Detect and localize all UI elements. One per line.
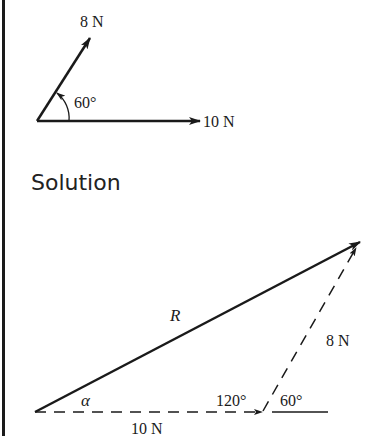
angle-arc xyxy=(57,93,69,121)
resultant-label: R xyxy=(169,306,181,325)
given-force-diagram: 8 N 60° 10 N xyxy=(37,13,235,130)
side-8n-label: 8 N xyxy=(326,332,350,349)
solution-triangle-diagram: R α 8 N 120° 60° 10 N xyxy=(35,242,360,436)
side-10n-label: 10 N xyxy=(131,420,163,436)
angle-60-label: 60° xyxy=(74,94,96,111)
alpha-label: α xyxy=(81,391,91,410)
vector-diagrams: 8 N 60° 10 N R α 8 N 120° 60° 10 N xyxy=(0,0,379,436)
solution-heading: Solution xyxy=(31,170,121,195)
angle-120-label: 120° xyxy=(216,392,246,409)
dashed-8n-side xyxy=(263,248,356,411)
force-10n-label: 10 N xyxy=(203,113,235,130)
force-8n-label: 8 N xyxy=(80,13,104,30)
angle-60-exterior-label: 60° xyxy=(280,392,302,409)
